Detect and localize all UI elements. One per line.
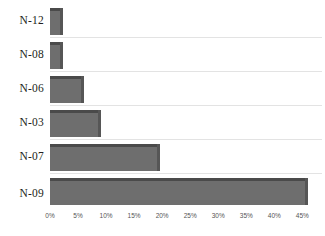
bar-chart: N-12 N-08 N-06 N-03 [0,0,325,236]
plot-area: N-12 N-08 N-06 N-03 [0,0,325,236]
category-label-3: N-03 [0,117,44,129]
gridline-5 [50,173,322,174]
xtick-label-5: 25% [177,213,203,220]
bar-right-face-2 [81,76,84,103]
bar-body-3 [50,113,98,137]
xtick-label-2: 10% [93,213,119,220]
bar-right-face-4 [157,144,160,171]
bar-body-1 [50,45,60,69]
bar-top-face-3 [50,110,98,113]
bar-body-5 [50,181,305,205]
bar-4 [50,147,157,171]
gridline-1 [50,37,322,38]
category-label-2: N-06 [0,83,44,95]
xtick-label-9: 45% [289,213,315,220]
bar-0 [50,11,60,35]
xtick-label-8: 40% [261,213,287,220]
gridline-3 [50,105,322,106]
bar-top-face-5 [50,178,305,181]
category-label-4: N-07 [0,151,44,163]
bar-body-0 [50,11,60,35]
category-label-0: N-12 [0,15,44,27]
bar-3 [50,113,98,137]
xtick-label-1: 5% [65,213,91,220]
bar-right-face-0 [60,8,63,35]
bar-top-face-1 [50,42,60,45]
xtick-label-0: 0% [37,213,63,220]
category-label-5: N-09 [0,188,44,200]
gridline-4 [50,139,322,140]
xtick-label-3: 15% [121,213,147,220]
bar-right-face-1 [60,42,63,69]
xtick-label-4: 20% [149,213,175,220]
bar-top-face-0 [50,8,60,11]
bar-body-2 [50,79,81,103]
bar-top-face-4 [50,144,157,147]
bar-5 [50,181,305,205]
xtick-label-6: 30% [205,213,231,220]
gridline-2 [50,71,322,72]
xtick-label-7: 35% [233,213,259,220]
bar-top-face-2 [50,76,81,79]
bar-right-face-5 [305,178,308,205]
bar-body-4 [50,147,157,171]
bar-1 [50,45,60,69]
category-label-1: N-08 [0,49,44,61]
bar-right-face-3 [98,110,101,137]
bar-2 [50,79,81,103]
